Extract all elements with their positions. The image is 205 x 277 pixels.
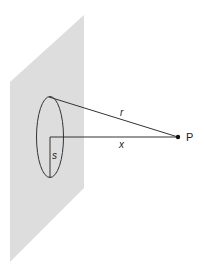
label-s: s <box>52 150 57 161</box>
ring-field-diagram: r x s P <box>0 0 205 277</box>
label-r: r <box>120 107 124 118</box>
label-p: P <box>186 131 193 143</box>
label-x: x <box>118 139 125 150</box>
plane <box>10 15 84 262</box>
point-p-dot <box>176 135 180 139</box>
